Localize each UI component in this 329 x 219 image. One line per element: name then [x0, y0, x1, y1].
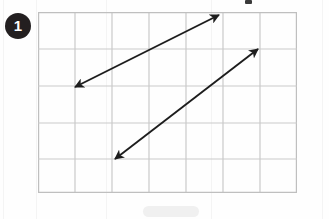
grid-lines — [38, 12, 297, 193]
scan-artifact-streak — [3, 0, 4, 219]
scan-artifact-smudge — [143, 206, 199, 217]
scan-artifact-streak — [36, 0, 37, 219]
cropped-text-fragment-icon — [245, 0, 252, 4]
worksheet-figure: 1 — [0, 0, 329, 219]
question-number-badge: 1 — [5, 13, 31, 39]
grid-container — [38, 12, 297, 193]
scan-artifact-streak — [322, 0, 323, 219]
